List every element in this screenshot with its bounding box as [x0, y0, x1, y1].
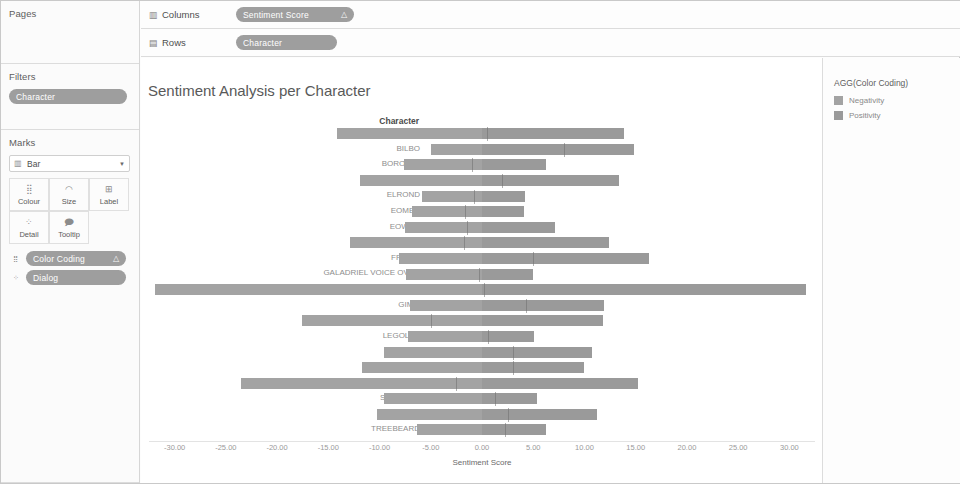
rows-pill-character[interactable]: Character [236, 35, 337, 50]
marks-button-label[interactable]: ⊞ Label [89, 178, 129, 211]
row-label-elrond[interactable]: ELROND [387, 190, 420, 199]
bar-chart-plot: ARAGORNBILBOBOROMIRDENETHORELRONDEOMEREO… [141, 126, 823, 439]
bar-segment-negativity[interactable] [431, 144, 482, 155]
shelf-area: ▥ Columns Sentiment Score △ ▤ Rows Chara… [141, 1, 960, 57]
detail-icon-small: ⁘ [9, 274, 22, 282]
bar-segment-negativity[interactable] [408, 331, 482, 342]
bar-segment-positivity[interactable] [482, 424, 546, 435]
legend-item-positivity[interactable]: Positivity [834, 111, 950, 120]
bar-divider-tick [508, 408, 509, 422]
x-axis-tick: -20.00 [266, 443, 287, 452]
axis-line [149, 441, 815, 442]
bar-segment-positivity[interactable] [482, 284, 806, 295]
size-icon: ◠ [65, 184, 73, 195]
bar-segment-negativity[interactable] [241, 378, 482, 389]
bar-sam[interactable] [241, 378, 638, 389]
bar-saruman[interactable] [384, 393, 538, 404]
bar-segment-positivity[interactable] [482, 191, 525, 202]
bar-treebeard[interactable] [417, 424, 545, 435]
bar-galadriel-voice-over[interactable] [406, 269, 533, 280]
legend-swatch-positivity [834, 111, 843, 120]
marks-pill-color-coding[interactable]: Color Coding △ [26, 251, 126, 266]
bar-divider-tick [487, 127, 488, 141]
marks-button-detail[interactable]: ⁘ Detail [9, 211, 49, 244]
bar-merry[interactable] [384, 347, 592, 358]
bar-aragorn[interactable] [337, 128, 625, 139]
bar-legolas[interactable] [408, 331, 534, 342]
legend-label-positivity: Positivity [849, 111, 881, 120]
bar-segment-negativity[interactable] [337, 128, 482, 139]
bar-gandalf[interactable] [155, 284, 806, 295]
marks-button-size[interactable]: ◠ Size [49, 178, 89, 211]
bar-theoden[interactable] [377, 409, 596, 420]
bar-segment-positivity[interactable] [482, 206, 524, 217]
bar-segment-negativity[interactable] [302, 315, 482, 326]
bar-boromir[interactable] [404, 159, 545, 170]
marks-button-label-label: Label [100, 197, 118, 206]
bar-divider-tick [467, 221, 468, 235]
delta-icon: △ [341, 10, 347, 19]
bar-segment-positivity[interactable] [482, 237, 609, 248]
bar-segment-positivity[interactable] [482, 331, 534, 342]
row-label-treebeard[interactable]: TREEBEARD [371, 424, 420, 433]
bar-denethor[interactable] [360, 175, 619, 186]
bar-divider-tick [526, 299, 527, 313]
columns-shelf[interactable]: ▥ Columns Sentiment Score △ [141, 1, 960, 29]
bar-segment-positivity[interactable] [482, 362, 584, 373]
marks-button-colour[interactable]: ⣿ Colour [9, 178, 49, 211]
bar-segment-positivity[interactable] [482, 159, 546, 170]
marks-pill-dialog[interactable]: Dialog [26, 270, 126, 285]
bar-segment-positivity[interactable] [482, 253, 649, 264]
bar-bilbo[interactable] [431, 144, 634, 155]
filter-pill-character[interactable]: Character [9, 89, 127, 104]
bar-segment-positivity[interactable] [482, 393, 537, 404]
chevron-down-icon[interactable]: ▼ [119, 161, 125, 167]
bar-segment-negativity[interactable] [350, 237, 482, 248]
bar-segment-negativity[interactable] [410, 300, 482, 311]
bar-frodo[interactable] [399, 253, 649, 264]
x-axis-title: Sentiment Score [141, 458, 823, 467]
bar-segment-positivity[interactable] [482, 144, 634, 155]
bar-segment-negativity[interactable] [377, 409, 482, 420]
bar-segment-negativity[interactable] [406, 269, 482, 280]
bar-segment-negativity[interactable] [399, 253, 482, 264]
bar-segment-negativity[interactable] [362, 362, 482, 373]
columns-pill-sentiment-score[interactable]: Sentiment Score △ [236, 7, 354, 22]
bar-segment-negativity[interactable] [405, 222, 482, 233]
bar-segment-negativity[interactable] [384, 347, 482, 358]
bar-pippin[interactable] [362, 362, 584, 373]
bar-faramir[interactable] [350, 237, 609, 248]
bar-segment-positivity[interactable] [482, 347, 592, 358]
bar-gollum[interactable] [302, 315, 603, 326]
bar-elrond[interactable] [422, 191, 525, 202]
bar-segment-positivity[interactable] [482, 378, 638, 389]
rows-shelf-label: Rows [162, 37, 236, 48]
bar-segment-positivity[interactable] [482, 222, 555, 233]
bar-segment-negativity[interactable] [412, 206, 482, 217]
row-label-bilbo[interactable]: BILBO [396, 144, 420, 153]
chart-row: THEODEN [141, 407, 823, 423]
bar-segment-positivity[interactable] [482, 128, 624, 139]
bar-segment-negativity[interactable] [155, 284, 482, 295]
marks-type-dropdown[interactable]: ▥ Bar ▼ [9, 155, 130, 172]
bar-segment-positivity[interactable] [482, 300, 604, 311]
bar-segment-negativity[interactable] [404, 159, 482, 170]
bar-segment-negativity[interactable] [384, 393, 482, 404]
bar-segment-negativity[interactable] [417, 424, 482, 435]
x-axis-tick: 30.00 [780, 443, 799, 452]
chart-row: ELROND [141, 188, 823, 204]
marks-pill-row-dialog: ⁘ Dialog [9, 270, 131, 285]
marks-button-size-label: Size [62, 197, 77, 206]
marks-title: Marks [9, 137, 131, 148]
bar-segment-positivity[interactable] [482, 409, 597, 420]
bar-eomer[interactable] [412, 206, 524, 217]
bar-segment-positivity[interactable] [482, 315, 603, 326]
bar-segment-positivity[interactable] [482, 269, 533, 280]
rows-shelf[interactable]: ▤ Rows Character [141, 29, 960, 57]
bar-gimli[interactable] [410, 300, 604, 311]
marks-button-tooltip[interactable]: 🗩 Tooltip [49, 211, 89, 244]
bar-segment-negativity[interactable] [360, 175, 482, 186]
legend-item-negativity[interactable]: Negativity [834, 96, 950, 105]
tableau-worksheet-window: Pages Filters Character Marks ▥ Bar ▼ ⣿ … [0, 0, 960, 484]
bar-eowyn[interactable] [405, 222, 555, 233]
